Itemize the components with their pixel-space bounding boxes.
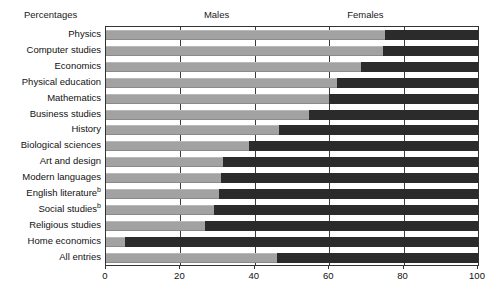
bar-segment-males: [106, 141, 249, 151]
x-tick-label-100: 100: [469, 270, 485, 281]
footnote-marker: b: [97, 186, 101, 193]
table-row: [106, 94, 478, 104]
category-label-english-literature: English literatureb: [0, 188, 101, 198]
x-tick-label-80: 80: [397, 270, 408, 281]
plot-area: [105, 26, 479, 266]
stacked-bar-chart: Percentages Males Females PhysicsCompute…: [0, 0, 502, 298]
bar-segment-males: [106, 94, 329, 104]
bar-segment-males: [106, 189, 219, 199]
bar-segment-males: [106, 62, 361, 72]
category-label-history: History: [0, 124, 101, 134]
category-label-home-economics: Home economics: [0, 236, 101, 246]
bar-segment-males: [106, 205, 214, 215]
category-label-mathematics: Mathematics: [0, 93, 101, 103]
category-label-all-entries: All entries: [0, 252, 101, 262]
x-tick-40: [254, 265, 255, 269]
bar-segment-females: [337, 78, 478, 88]
table-row: [106, 62, 478, 72]
bar-segment-females: [385, 30, 478, 40]
bar-segment-males: [106, 78, 337, 88]
category-label-art-and-design: Art and design: [0, 156, 101, 166]
bar-segment-males: [106, 221, 205, 231]
legend-label-males: Males: [204, 9, 229, 20]
category-label-religious-studies: Religious studies: [0, 220, 101, 230]
bar-segment-males: [106, 237, 125, 247]
table-row: [106, 189, 478, 199]
legend-label-females: Females: [347, 9, 383, 20]
table-row: [106, 78, 478, 88]
x-tick-0: [105, 265, 106, 269]
x-tick-20: [179, 265, 180, 269]
table-row: [106, 110, 478, 120]
table-row: [106, 30, 478, 40]
bar-segment-females: [279, 125, 478, 135]
category-label-social-studies: Social studiesb: [0, 204, 101, 214]
x-tick-label-0: 0: [102, 270, 107, 281]
x-tick-label-20: 20: [174, 270, 185, 281]
bar-segment-females: [219, 189, 478, 199]
x-tick-label-60: 60: [323, 270, 334, 281]
bar-segment-females: [223, 157, 478, 167]
bar-segment-males: [106, 125, 279, 135]
percentages-label: Percentages: [24, 9, 77, 20]
bar-segment-females: [205, 221, 478, 231]
category-label-physical-education: Physical education: [0, 77, 101, 87]
category-label-physics: Physics: [0, 29, 101, 39]
x-tick-60: [328, 265, 329, 269]
footnote-marker: b: [97, 202, 101, 209]
bar-segment-females: [221, 173, 478, 183]
bar-segment-males: [106, 253, 277, 263]
x-tick-80: [403, 265, 404, 269]
bar-segment-females: [361, 62, 478, 72]
x-tick-label-40: 40: [249, 270, 260, 281]
bar-segment-females: [309, 110, 478, 120]
bar-segment-males: [106, 46, 383, 56]
table-row: [106, 237, 478, 247]
table-row: [106, 141, 478, 151]
category-label-computer-studies: Computer studies: [0, 45, 101, 55]
category-label-modern-languages: Modern languages: [0, 172, 101, 182]
bar-segment-females: [125, 237, 478, 247]
category-label-business-studies: Business studies: [0, 109, 101, 119]
category-label-biological-sciences: Biological sciences: [0, 140, 101, 150]
x-tick-100: [477, 265, 478, 269]
table-row: [106, 125, 478, 135]
category-label-economics: Economics: [0, 61, 101, 71]
table-row: [106, 173, 478, 183]
bar-segment-females: [214, 205, 478, 215]
table-row: [106, 253, 478, 263]
bar-segment-females: [383, 46, 478, 56]
bar-segment-males: [106, 173, 221, 183]
bar-segment-males: [106, 157, 223, 167]
bar-segment-males: [106, 110, 309, 120]
bar-segment-females: [277, 253, 478, 263]
bar-segment-females: [249, 141, 478, 151]
bar-segment-males: [106, 30, 385, 40]
table-row: [106, 221, 478, 231]
table-row: [106, 205, 478, 215]
table-row: [106, 46, 478, 56]
bar-segment-females: [329, 94, 478, 104]
table-row: [106, 157, 478, 167]
